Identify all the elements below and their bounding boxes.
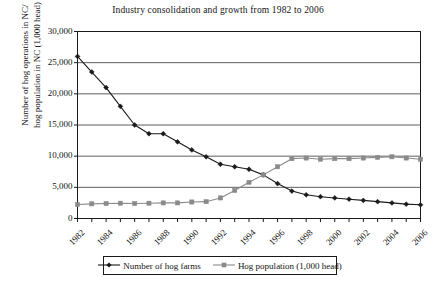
data-point-marker bbox=[361, 156, 365, 160]
data-point-marker bbox=[347, 197, 352, 202]
chart-legend: Number of hog farmsHog population (1,000… bbox=[103, 256, 337, 275]
bottom-caption bbox=[6, 283, 426, 290]
legend-item-label: Hog population (1,000 head) bbox=[238, 261, 342, 271]
data-point-marker bbox=[375, 199, 380, 204]
data-point-marker bbox=[275, 165, 279, 169]
data-point-marker bbox=[175, 201, 179, 205]
data-point-marker bbox=[390, 201, 395, 206]
data-point-marker bbox=[104, 201, 108, 205]
data-point-marker bbox=[361, 198, 366, 203]
data-point-marker bbox=[204, 154, 209, 159]
y-axis-tick-label: 5,000 bbox=[33, 181, 73, 191]
data-point-marker bbox=[404, 156, 408, 160]
data-point-marker bbox=[404, 202, 409, 207]
data-point-marker bbox=[75, 202, 79, 206]
legend-item-hog-farms: Number of hog farms bbox=[98, 260, 201, 272]
legend-item-label: Number of hog farms bbox=[123, 261, 201, 271]
y-axis-tick-label: 10,000 bbox=[33, 150, 73, 160]
data-point-marker bbox=[376, 155, 380, 159]
data-point-marker bbox=[175, 139, 180, 144]
data-point-marker bbox=[304, 156, 308, 160]
y-axis-tick-label: 30,000 bbox=[33, 26, 73, 36]
data-point-marker bbox=[189, 148, 194, 153]
data-point-marker bbox=[333, 157, 337, 161]
chart-figure: Industry consolidation and growth from 1… bbox=[0, 0, 436, 290]
data-point-marker bbox=[118, 201, 122, 205]
data-point-marker bbox=[218, 196, 222, 200]
data-point-marker bbox=[218, 162, 223, 167]
y-axis-tick-label: 25,000 bbox=[33, 57, 73, 67]
data-point-marker bbox=[247, 167, 252, 172]
diamond-marker-icon bbox=[98, 260, 120, 272]
data-point-marker bbox=[318, 194, 323, 199]
plot-area: 05,00010,00015,00020,00025,00030,0001982… bbox=[0, 0, 436, 290]
data-point-marker bbox=[204, 200, 208, 204]
data-point-marker bbox=[90, 202, 94, 206]
data-point-marker bbox=[232, 164, 237, 169]
data-point-marker bbox=[261, 173, 265, 177]
data-point-marker bbox=[304, 192, 309, 197]
data-point-marker bbox=[347, 157, 351, 161]
data-point-marker bbox=[133, 201, 137, 205]
y-axis-tick-label: 15,000 bbox=[33, 119, 73, 129]
data-point-marker bbox=[418, 202, 423, 207]
data-point-marker bbox=[332, 196, 337, 201]
data-point-marker bbox=[318, 157, 322, 161]
y-axis-tick-label: 0 bbox=[33, 213, 73, 223]
data-point-marker bbox=[275, 181, 280, 186]
data-point-marker bbox=[233, 188, 237, 192]
data-point-marker bbox=[147, 131, 152, 136]
y-axis-tick-label: 20,000 bbox=[33, 88, 73, 98]
data-point-marker bbox=[147, 201, 151, 205]
data-point-marker bbox=[247, 180, 251, 184]
square-marker-icon bbox=[213, 260, 235, 272]
data-point-marker bbox=[190, 200, 194, 204]
data-point-marker bbox=[290, 157, 294, 161]
data-point-marker bbox=[161, 131, 166, 136]
data-point-marker bbox=[418, 157, 422, 161]
legend-item-hog-population: Hog population (1,000 head) bbox=[213, 260, 342, 272]
data-point-marker bbox=[390, 155, 394, 159]
data-point-marker bbox=[161, 201, 165, 205]
data-point-marker bbox=[289, 189, 294, 194]
